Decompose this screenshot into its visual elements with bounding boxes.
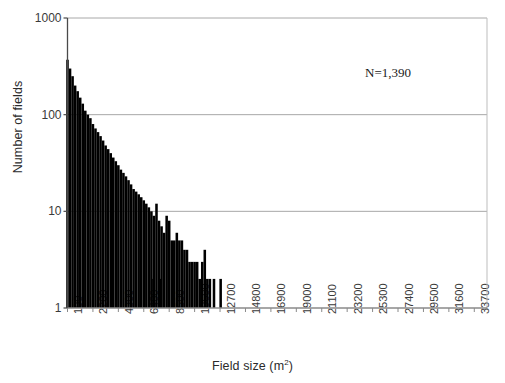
bar-series (66, 60, 222, 308)
chart-figure: Number of fields Field size (m2) N=1,390… (0, 0, 505, 383)
plot-canvas (0, 0, 505, 383)
